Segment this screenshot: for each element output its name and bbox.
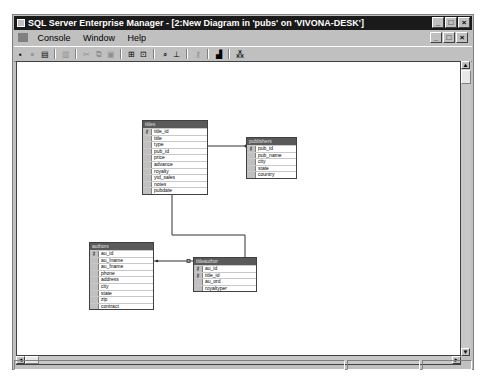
row-selector[interactable]	[143, 188, 152, 194]
mdi-restore-button[interactable]: □	[443, 32, 455, 43]
column-row[interactable]: ⚷pub_id	[247, 145, 296, 152]
row-selector[interactable]	[194, 279, 203, 285]
row-selector[interactable]	[143, 136, 152, 142]
relationship-lines	[17, 62, 461, 356]
table-titleauthor[interactable]: titleauthor⚷au_id⚷title_idau_ordroyaltyp…	[193, 257, 257, 292]
column-name: pubdate	[152, 188, 172, 194]
primary-key-icon[interactable]: ⚷	[194, 273, 203, 279]
row-selector[interactable]	[90, 304, 99, 310]
column-row[interactable]: ⚷au_id	[194, 265, 256, 272]
column-row[interactable]: country	[247, 171, 296, 178]
mdi-close-button[interactable]: ×	[456, 32, 468, 43]
copy-icon[interactable]: ⧉	[94, 50, 103, 59]
table-title[interactable]: publishers	[247, 138, 296, 145]
column-row[interactable]: notes	[143, 181, 207, 188]
row-selector[interactable]	[90, 297, 99, 303]
print-preview-icon[interactable]: ▥	[61, 50, 70, 59]
arrange-tables-icon[interactable]: ⁂	[235, 50, 244, 59]
primary-key-icon[interactable]: ⚷	[247, 146, 256, 152]
close-button[interactable]: ×	[458, 17, 470, 28]
row-selector[interactable]	[90, 271, 99, 277]
table-title[interactable]: authors	[90, 243, 153, 250]
row-selector[interactable]	[90, 284, 99, 290]
column-row[interactable]: au_fname	[90, 263, 153, 270]
cut-icon[interactable]: ✂	[82, 50, 91, 59]
primary-key-icon[interactable]: ⚷	[90, 251, 99, 257]
row-selector[interactable]	[90, 258, 99, 264]
set-primary-key-icon[interactable]: ⚷	[193, 50, 202, 59]
toolbar-separator	[54, 49, 56, 59]
console-icon[interactable]	[18, 33, 28, 42]
table-title[interactable]: titleauthor	[194, 258, 256, 265]
mdi-minimize-button[interactable]: _	[430, 32, 442, 43]
row-selector[interactable]	[247, 166, 256, 172]
show-relationship-labels-icon[interactable]: ⊥	[172, 50, 181, 59]
column-row[interactable]: ytd_sales	[143, 174, 207, 181]
scroll-up-button[interactable]: ▲	[461, 61, 470, 69]
vertical-scroll-thumb[interactable]	[461, 70, 471, 84]
print-icon[interactable]: ▤	[40, 50, 49, 59]
row-selector[interactable]	[143, 162, 152, 168]
column-row[interactable]: pub_id	[143, 148, 207, 155]
new-table-icon[interactable]: ⊡	[139, 50, 148, 59]
row-selector[interactable]	[90, 291, 99, 297]
row-selector[interactable]	[143, 149, 152, 155]
row-selector[interactable]	[90, 264, 99, 270]
column-row[interactable]: state	[90, 290, 153, 297]
column-row[interactable]: pubdate	[143, 187, 207, 194]
row-selector[interactable]	[247, 153, 256, 159]
column-row[interactable]: city	[90, 283, 153, 290]
zoom-icon[interactable]: ⌕	[160, 50, 169, 59]
column-row[interactable]: address	[90, 276, 153, 283]
row-selector[interactable]	[143, 182, 152, 188]
column-row[interactable]: title	[143, 135, 207, 142]
menu-help[interactable]: Help	[123, 31, 152, 45]
column-row[interactable]: contract	[90, 303, 153, 310]
table-title[interactable]: titles	[143, 121, 207, 128]
maximize-button[interactable]: □	[445, 17, 457, 28]
row-selector[interactable]	[143, 142, 152, 148]
column-row[interactable]: price	[143, 154, 207, 161]
table-view-icon[interactable]: ▟	[214, 50, 223, 59]
column-row[interactable]: ⚷au_id	[90, 250, 153, 257]
minimize-button[interactable]: _	[432, 17, 444, 28]
column-row[interactable]: pub_name	[247, 152, 296, 159]
scroll-down-button[interactable]: ▼	[461, 348, 470, 356]
relationship-titles-titleauthor[interactable]	[172, 192, 245, 257]
row-selector[interactable]	[143, 169, 152, 175]
diagram-canvas[interactable]: titles⚷title_idtitletypepub_idpriceadvan…	[16, 61, 461, 356]
row-selector[interactable]	[143, 155, 152, 161]
vertical-scrollbar[interactable]: ▲ ▼	[461, 61, 471, 356]
column-row[interactable]: ⚷title_id	[143, 128, 207, 135]
title-bar[interactable]: SQL Server Enterprise Manager - [2:New D…	[14, 16, 472, 30]
column-row[interactable]: royalty	[143, 168, 207, 175]
menu-window[interactable]: Window	[78, 31, 120, 45]
column-row[interactable]: advance	[143, 161, 207, 168]
primary-key-icon[interactable]: ⚷	[194, 266, 203, 272]
primary-key-icon[interactable]: ⚷	[143, 129, 152, 135]
column-row[interactable]: royaltyper	[194, 285, 256, 292]
add-table-icon[interactable]: ⊞	[127, 50, 136, 59]
paste-icon[interactable]: ▣	[106, 50, 115, 59]
menu-console[interactable]: Console	[33, 31, 76, 45]
row-selector[interactable]	[194, 286, 203, 292]
row-selector[interactable]	[90, 277, 99, 283]
column-row[interactable]: phone	[90, 270, 153, 277]
row-selector[interactable]	[247, 172, 256, 178]
table-authors[interactable]: authors⚷au_idau_lnameau_fnamephoneaddres…	[89, 242, 154, 310]
app-icon[interactable]	[17, 19, 25, 27]
row-selector[interactable]	[247, 159, 256, 165]
column-row[interactable]: au_ord	[194, 278, 256, 285]
column-row[interactable]: state	[247, 165, 296, 172]
column-row[interactable]: type	[143, 141, 207, 148]
column-row[interactable]: ⚷title_id	[194, 272, 256, 279]
table-publishers[interactable]: publishers⚷pub_idpub_namecitystatecountr…	[246, 137, 297, 179]
table-titles[interactable]: titles⚷title_idtitletypepub_idpriceadvan…	[142, 120, 208, 195]
column-row[interactable]: zip	[90, 296, 153, 303]
column-name: ytd_sales	[152, 175, 175, 181]
properties-icon[interactable]: ▫	[28, 50, 37, 59]
column-row[interactable]: au_lname	[90, 257, 153, 264]
save-icon[interactable]: ▪	[16, 50, 25, 59]
column-row[interactable]: city	[247, 158, 296, 165]
row-selector[interactable]	[143, 175, 152, 181]
